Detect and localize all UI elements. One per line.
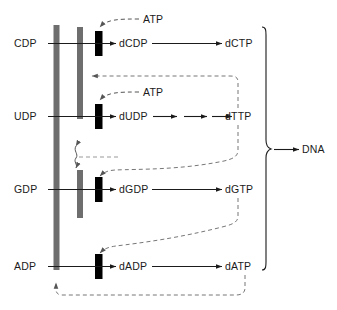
reductase-bar-mid-lower bbox=[77, 170, 83, 218]
dashed-feedback-dttp-to-gdp bbox=[100, 125, 238, 176]
label-dgdp: dGDP bbox=[119, 184, 148, 195]
label-udp: UDP bbox=[14, 111, 37, 122]
label-dudp: dUDP bbox=[119, 111, 148, 122]
label-dctp: dCTP bbox=[225, 38, 253, 49]
dashed-feedback-dgtp-to-adp bbox=[100, 198, 238, 253]
reductase-bar-mid-upper bbox=[77, 27, 83, 119]
label-gdp: GDP bbox=[14, 184, 37, 195]
label-datp: dATP bbox=[225, 261, 251, 272]
double-headed-gate-arrow bbox=[75, 146, 77, 168]
product-brace bbox=[262, 27, 271, 270]
dashed-feedback-dttp-upper bbox=[92, 76, 238, 108]
dashed-feedback-datp-bottom bbox=[56, 275, 245, 295]
dashed-atp-to-udp-gate bbox=[100, 92, 139, 100]
label-atp-cdp: ATP bbox=[143, 14, 163, 25]
label-cdp: CDP bbox=[14, 38, 37, 49]
label-adp: ADP bbox=[14, 261, 36, 272]
label-dgtp: dGTP bbox=[225, 184, 253, 195]
label-dna: DNA bbox=[302, 144, 325, 155]
label-dadp: dADP bbox=[119, 261, 147, 272]
label-dcdp: dCDP bbox=[119, 38, 148, 49]
label-dttp: dTTP bbox=[225, 111, 251, 122]
pathway-canvas bbox=[0, 0, 337, 310]
dashed-atp-to-cdp-gate bbox=[100, 19, 139, 27]
label-atp-udp: ATP bbox=[143, 87, 163, 98]
reductase-bar-left bbox=[54, 25, 60, 270]
pathway-diagram: CDP UDP GDP ADP dCDP dUDP dGDP dADP dCTP… bbox=[0, 0, 337, 310]
